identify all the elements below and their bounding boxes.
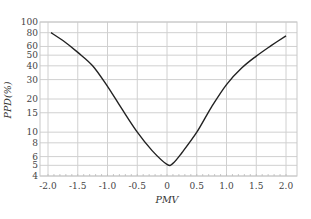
- x-tick-label: 1.5: [249, 181, 264, 191]
- x-tick-label: -1.0: [99, 181, 117, 191]
- y-tick-label: 30: [27, 75, 39, 85]
- x-tick-label: 1.0: [219, 181, 234, 191]
- y-tick-label: 100: [21, 17, 38, 27]
- x-tick-label: -0.5: [129, 181, 147, 191]
- x-tick-label: -1.5: [69, 181, 87, 191]
- y-tick-label: 5: [32, 160, 38, 170]
- x-tick-label: -2.0: [39, 181, 57, 191]
- y-tick-label: 8: [32, 138, 38, 148]
- x-minor-ticks: [48, 174, 286, 176]
- x-axis-label: PMV: [155, 194, 180, 205]
- y-tick-label: 4: [32, 171, 38, 181]
- y-tick-label: 80: [27, 28, 39, 38]
- y-tick-label: 15: [27, 108, 39, 118]
- y-tick-label: 10: [27, 127, 39, 137]
- x-tick-label: 2.0: [279, 181, 294, 191]
- x-tick-label: 0: [164, 181, 170, 191]
- y-tick-label: 50: [27, 50, 39, 60]
- x-tick-label: 0.5: [190, 181, 205, 191]
- grid: [40, 22, 297, 176]
- y-tick-label: 20: [27, 94, 39, 104]
- y-axis-label: PPD(%): [2, 81, 13, 119]
- ppd-pmv-chart: 10080605040302015108654 -2.0-1.5-1.0-0.5…: [0, 0, 311, 219]
- x-axis-ticks: -2.0-1.5-1.0-0.500.51.01.52.0: [39, 181, 293, 191]
- y-tick-label: 40: [27, 61, 39, 71]
- y-axis-ticks: 10080605040302015108654: [21, 17, 38, 181]
